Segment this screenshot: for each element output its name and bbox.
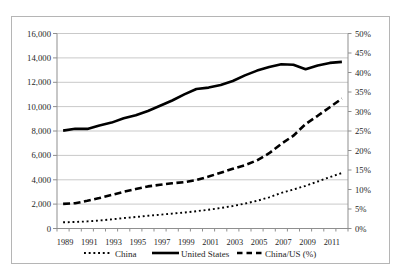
left-axis-label-4,000: 4,000 xyxy=(31,175,51,185)
left-axis-label-16,000: 16,000 xyxy=(27,29,52,39)
left-axis-label-12,000: 12,000 xyxy=(27,77,52,87)
x-axis-label-2011: 2011 xyxy=(324,238,340,247)
legend-item-china: China xyxy=(84,249,137,259)
legend-label-china-us-: China/US (%) xyxy=(265,249,316,259)
right-axis-label-35%: 35% xyxy=(355,87,371,97)
legend: ChinaUnited StatesChina/US (%) xyxy=(84,249,316,259)
axis-ticks xyxy=(53,34,352,232)
chart-svg: 02,0004,0006,0008,00010,00012,00014,0001… xyxy=(0,0,401,277)
x-axis-label-2001: 2001 xyxy=(202,238,219,247)
series-line-united-states xyxy=(63,62,342,131)
right-axis-label-30%: 30% xyxy=(355,107,371,117)
right-axis-label-5%: 5% xyxy=(355,204,367,214)
x-axis-label-1995: 1995 xyxy=(130,238,147,247)
legend-label-united-states: United States xyxy=(181,249,230,259)
x-axis-label-1997: 1997 xyxy=(154,238,171,247)
x-axis-label-2003: 2003 xyxy=(227,238,244,247)
legend-item-china-us-: China/US (%) xyxy=(237,249,316,259)
x-axis-labels: 1989199119931995199719992001200320052007… xyxy=(57,238,340,247)
left-axis-labels: 02,0004,0006,0008,00010,00012,00014,0001… xyxy=(27,29,52,234)
figure-border xyxy=(12,17,390,264)
x-axis-label-1991: 1991 xyxy=(81,238,98,247)
x-axis-label-2009: 2009 xyxy=(299,238,316,247)
left-axis-label-2,000: 2,000 xyxy=(31,199,51,209)
left-axis-label-6,000: 6,000 xyxy=(31,150,51,160)
x-axis-label-1993: 1993 xyxy=(105,238,122,247)
right-axis-label-50%: 50% xyxy=(355,29,371,39)
right-axis-label-45%: 45% xyxy=(355,48,371,58)
x-axis-label-2005: 2005 xyxy=(251,238,268,247)
right-axis-label-0%: 0% xyxy=(355,224,367,234)
legend-item-united-states: United States xyxy=(152,249,230,259)
left-axis-label-8,000: 8,000 xyxy=(31,126,51,136)
right-axis-label-40%: 40% xyxy=(355,68,371,78)
right-axis-labels: 0%5%10%15%20%25%30%35%40%45%50% xyxy=(355,29,371,234)
left-axis-label-10,000: 10,000 xyxy=(27,102,52,112)
x-axis-label-2007: 2007 xyxy=(275,238,292,247)
left-axis-label-0: 0 xyxy=(47,224,52,234)
figure: 02,0004,0006,0008,00010,00012,00014,0001… xyxy=(0,0,401,277)
series-lines xyxy=(63,62,342,222)
right-axis-label-25%: 25% xyxy=(355,126,371,136)
right-axis-label-15%: 15% xyxy=(355,165,371,175)
legend-label-china: China xyxy=(115,249,137,259)
left-axis-label-14,000: 14,000 xyxy=(27,53,52,63)
x-axis-label-1989: 1989 xyxy=(57,238,74,247)
right-axis-label-20%: 20% xyxy=(355,146,371,156)
x-axis-label-1999: 1999 xyxy=(178,238,195,247)
right-axis-label-10%: 10% xyxy=(355,185,371,195)
